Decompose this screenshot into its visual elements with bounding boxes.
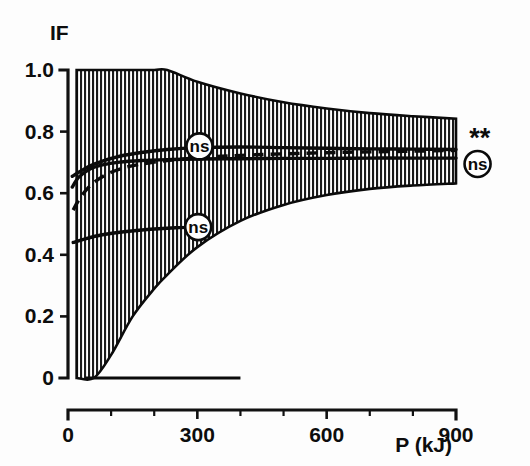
y-tick-label: 0 <box>42 366 54 389</box>
annotation-ns-lower: ns <box>185 214 211 240</box>
y-tick-label: 0.8 <box>25 120 55 143</box>
x-tick-label: 0 <box>62 423 74 446</box>
y-tick-label: 0.4 <box>25 243 55 266</box>
x-axis-title: P (kJ) <box>395 433 452 456</box>
x-tick-label: 300 <box>180 423 215 446</box>
annotation-label: ns <box>190 137 210 156</box>
y-axis-title: IF <box>50 21 69 44</box>
annotation-stars-right: ** <box>469 123 491 153</box>
annotation-ns-upper: ns <box>186 133 212 159</box>
x-tick-label: 600 <box>309 423 344 446</box>
figure-root: 00.20.40.60.81.0 0300600900 IF P (kJ) ns… <box>0 0 530 466</box>
annotation-label: ns <box>468 155 488 174</box>
y-tick-label: 0.2 <box>25 304 54 327</box>
annotation-ns-right: ns <box>465 151 491 177</box>
y-tick-label: 1.0 <box>25 58 54 81</box>
annotation-label: ** <box>469 123 491 153</box>
annotation-label: ns <box>188 218 208 237</box>
y-tick-label: 0.6 <box>25 181 54 204</box>
chart-canvas: 00.20.40.60.81.0 0300600900 IF P (kJ) ns… <box>0 0 530 466</box>
